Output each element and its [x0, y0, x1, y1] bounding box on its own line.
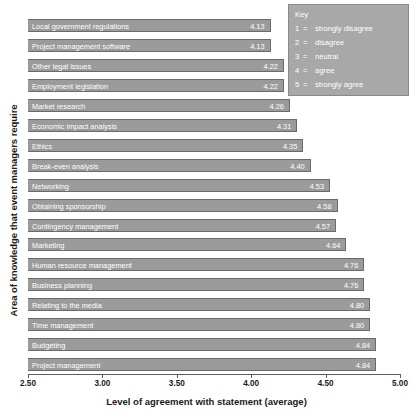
bar: Other legal issues4.22 [28, 59, 284, 72]
bar-value-label: 4.80 [350, 320, 364, 331]
bar-category-label: Networking [32, 181, 69, 192]
legend-item-number: 4 [295, 64, 303, 78]
bar: Time management4.80 [28, 318, 370, 331]
x-tick-label: 3.50 [157, 379, 197, 388]
legend-item-label: disagree [315, 38, 344, 47]
bar-value-label: 4.76 [344, 260, 358, 271]
legend-item-label: neutral [315, 52, 338, 61]
bar: Employment legislation4.22 [28, 79, 284, 92]
legend-item-equals: = [303, 64, 315, 78]
bar: Project management4.84 [28, 358, 376, 371]
bar: Economic impact analysis4.31 [28, 119, 297, 132]
bar: Budgeting4.84 [28, 338, 376, 351]
legend-item-equals: = [303, 50, 315, 64]
legend-item: 2=disagree [295, 36, 408, 50]
bar-category-label: Market research [32, 101, 85, 112]
bar-category-label: Project management [32, 360, 100, 371]
bar: Human resource management4.76 [28, 258, 364, 271]
bar: Business planning4.76 [28, 278, 364, 291]
bar-value-label: 4.22 [264, 61, 278, 72]
x-tick [326, 374, 327, 378]
x-axis-line [28, 374, 401, 375]
legend-key-box: Key 1=strongly disagree2=disagree3=neutr… [288, 4, 409, 96]
bar-value-label: 4.40 [290, 161, 304, 172]
x-axis-title: Level of agreement with statement (avera… [0, 396, 413, 407]
legend-item-equals: = [303, 78, 315, 92]
x-tick [28, 374, 29, 378]
bar: Market research4.26 [28, 99, 290, 112]
x-tick [177, 374, 178, 378]
legend-item: 1=strongly disagree [295, 22, 408, 36]
legend-item-number: 5 [295, 78, 303, 92]
bar: Marketing4.64 [28, 238, 346, 251]
bar-category-label: Marketing [32, 240, 64, 251]
bar-category-label: Other legal issues [32, 61, 91, 72]
bar-category-label: Project management software [32, 41, 130, 52]
bar: Networking4.53 [28, 179, 330, 192]
bar-value-label: 4.22 [264, 81, 278, 92]
bar-category-label: Contingency management [32, 221, 118, 232]
legend-item-number: 2 [295, 36, 303, 50]
legend-item: 3=neutral [295, 50, 408, 64]
x-tick [251, 374, 252, 378]
legend-item-number: 3 [295, 50, 303, 64]
bar-category-label: Break-even analysis [32, 161, 99, 172]
bar: Relating to the media4.80 [28, 298, 370, 311]
x-tick [400, 374, 401, 378]
x-tick-label: 4.00 [231, 379, 271, 388]
bar: Contingency management4.57 [28, 219, 336, 232]
bar-value-label: 4.26 [269, 101, 283, 112]
bar: Break-even analysis4.40 [28, 159, 311, 172]
bar: Ethics4.35 [28, 139, 303, 152]
bar-category-label: Budgeting [32, 340, 65, 351]
bar-value-label: 4.57 [316, 221, 330, 232]
bar-value-label: 4.76 [344, 280, 358, 291]
x-tick-label: 5.00 [380, 379, 413, 388]
bar-value-label: 4.53 [310, 181, 324, 192]
x-tick-label: 2.50 [8, 379, 48, 388]
bar-category-label: Business planning [32, 280, 92, 291]
bar-value-label: 4.13 [250, 21, 264, 32]
bar-value-label: 4.64 [326, 240, 340, 251]
bar-chart: Area of knowledge that event managers re… [0, 0, 413, 414]
bar-category-label: Employment legislation [32, 81, 108, 92]
x-tick-label: 3.00 [82, 379, 122, 388]
bar: Local government regulations4.13 [28, 19, 271, 32]
bar-category-label: Time management [32, 320, 93, 331]
bar: Project management software4.13 [28, 39, 271, 52]
legend-item-label: agree [315, 66, 334, 75]
bar-value-label: 4.35 [283, 141, 297, 152]
bar-value-label: 4.13 [250, 41, 264, 52]
x-tick [102, 374, 103, 378]
bar-value-label: 4.31 [277, 121, 291, 132]
legend-items: 1=strongly disagree2=disagree3=neutral4=… [295, 22, 408, 92]
legend-item-equals: = [303, 36, 315, 50]
legend-item-equals: = [303, 22, 315, 36]
bar-category-label: Relating to the media [32, 300, 102, 311]
bar-category-label: Local government regulations [32, 21, 129, 32]
bar-value-label: 4.84 [356, 360, 370, 371]
bar-category-label: Obtaining sponsorship [32, 201, 106, 212]
y-axis-title: Area of knowledge that event managers re… [8, 56, 19, 366]
bar-category-label: Economic impact analysis [32, 121, 117, 132]
legend-item: 4=agree [295, 64, 408, 78]
bar-category-label: Ethics [32, 141, 52, 152]
legend-item-label: strongly agree [315, 80, 363, 89]
legend-item-number: 1 [295, 22, 303, 36]
bar-value-label: 4.80 [350, 300, 364, 311]
bar-value-label: 4.58 [317, 201, 331, 212]
x-tick-label: 4.50 [306, 379, 346, 388]
bar: Obtaining sponsorship4.58 [28, 199, 338, 212]
legend-title: Key [295, 9, 408, 21]
legend-item-label: strongly disagree [315, 24, 373, 33]
bar-category-label: Human resource management [32, 260, 132, 271]
legend-item: 5=strongly agree [295, 78, 408, 92]
bar-value-label: 4.84 [356, 340, 370, 351]
